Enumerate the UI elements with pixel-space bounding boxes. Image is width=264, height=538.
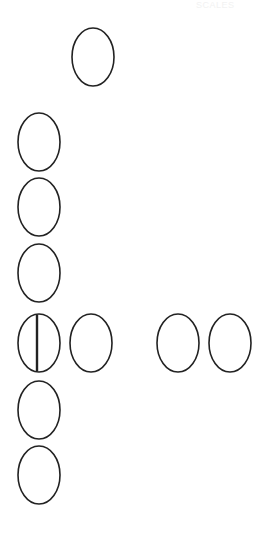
ovals-group [18, 28, 251, 504]
oval-left-6 [18, 446, 60, 504]
oval-left-5 [18, 381, 60, 439]
oval-left-1 [18, 113, 60, 171]
oval-row-4 [209, 314, 251, 372]
oval-row-divided [18, 314, 60, 372]
oval-row-3 [157, 314, 199, 372]
oval-left-3 [18, 244, 60, 302]
oval-diagram [0, 0, 264, 538]
oval-left-2 [18, 178, 60, 236]
oval-row-2 [70, 314, 112, 372]
oval-top [72, 28, 114, 86]
